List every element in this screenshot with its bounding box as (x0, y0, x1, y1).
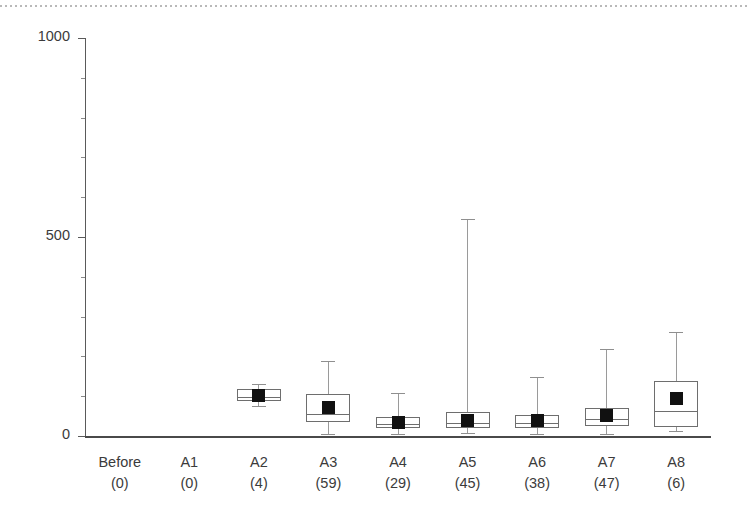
boxplot-a6[interactable] (515, 38, 559, 436)
mean-marker (531, 414, 544, 427)
mean-marker (461, 414, 474, 427)
boxplot-a4[interactable] (376, 38, 420, 436)
whisker-upper (676, 332, 677, 381)
whisker-cap-upper (252, 384, 266, 385)
whisker-cap-lower (252, 406, 266, 407)
median-line (306, 414, 350, 415)
boxplot-chart: 05001000 Before(0)A1(0)A2(4)A3(59)A4(29)… (0, 0, 747, 527)
whisker-cap-upper (391, 393, 405, 394)
whisker-lower (606, 426, 607, 434)
whisker-cap-lower (669, 431, 683, 432)
whisker-cap-upper (461, 219, 475, 220)
mean-marker (392, 416, 405, 429)
y-axis-label-0: 0 (8, 427, 70, 442)
boxplot-a7[interactable] (585, 38, 629, 436)
y-axis-tick-0 (78, 436, 85, 437)
mean-marker (252, 389, 265, 402)
plot-area (85, 38, 711, 436)
y-axis-label-1000: 1000 (8, 29, 70, 44)
category-name: A8 (631, 452, 721, 473)
boxplot-a3[interactable] (306, 38, 350, 436)
boxplot-a8[interactable] (654, 38, 698, 436)
whisker-cap-lower (600, 434, 614, 435)
whisker-upper (328, 361, 329, 394)
y-axis-label-500: 500 (8, 228, 70, 243)
whisker-cap-lower (321, 434, 335, 435)
boxplot-a5[interactable] (446, 38, 490, 436)
mean-marker (670, 392, 683, 405)
whisker-cap-upper (600, 349, 614, 350)
whisker-cap-lower (461, 433, 475, 434)
whisker-cap-upper (530, 377, 544, 378)
whisker-cap-lower (391, 434, 405, 435)
x-axis-line (85, 436, 711, 438)
mean-marker (600, 409, 613, 422)
category-count: (6) (631, 473, 721, 494)
y-axis-tick-500 (78, 237, 85, 238)
whisker-cap-upper (321, 361, 335, 362)
y-axis-tick-1000 (78, 38, 85, 39)
x-axis-category-a8: A8(6) (631, 452, 721, 494)
whisker-cap-lower (530, 434, 544, 435)
whisker-lower (328, 422, 329, 434)
whisker-upper (606, 349, 607, 408)
whisker-upper (398, 393, 399, 417)
boxplot-a2[interactable] (237, 38, 281, 436)
whisker-cap-upper (669, 332, 683, 333)
whisker-upper (537, 377, 538, 415)
whisker-upper (467, 219, 468, 412)
median-line (654, 411, 698, 412)
mean-marker (322, 401, 335, 414)
